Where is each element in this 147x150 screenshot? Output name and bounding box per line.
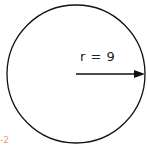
radius-arrow-head-icon [134,70,145,78]
radius-label: r = 9 [80,49,115,64]
corner-label: -2 [0,135,9,145]
circle-diagram [0,0,147,150]
